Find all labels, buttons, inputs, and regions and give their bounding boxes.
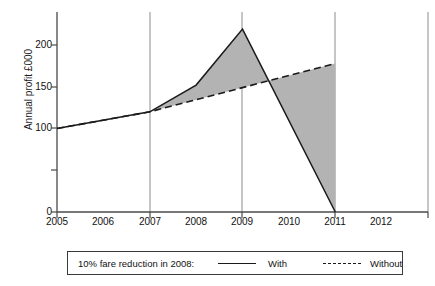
legend-dashed-line-icon [323, 263, 361, 264]
legend-caption: 10% fare reduction in 2008: [78, 258, 194, 269]
plot-area [0, 0, 435, 286]
x-tick-marks [57, 212, 428, 218]
shaded-difference-region [150, 29, 335, 212]
legend-solid-line-icon [218, 263, 256, 264]
chart-legend: 10% fare reduction in 2008: With Without [67, 251, 403, 275]
chart-container: Annual profit £000 200 150 100 0 2005 20… [0, 0, 435, 286]
y-tick-marks [51, 45, 57, 212]
legend-label-with: With [268, 258, 287, 269]
legend-label-without: Without [370, 258, 402, 269]
